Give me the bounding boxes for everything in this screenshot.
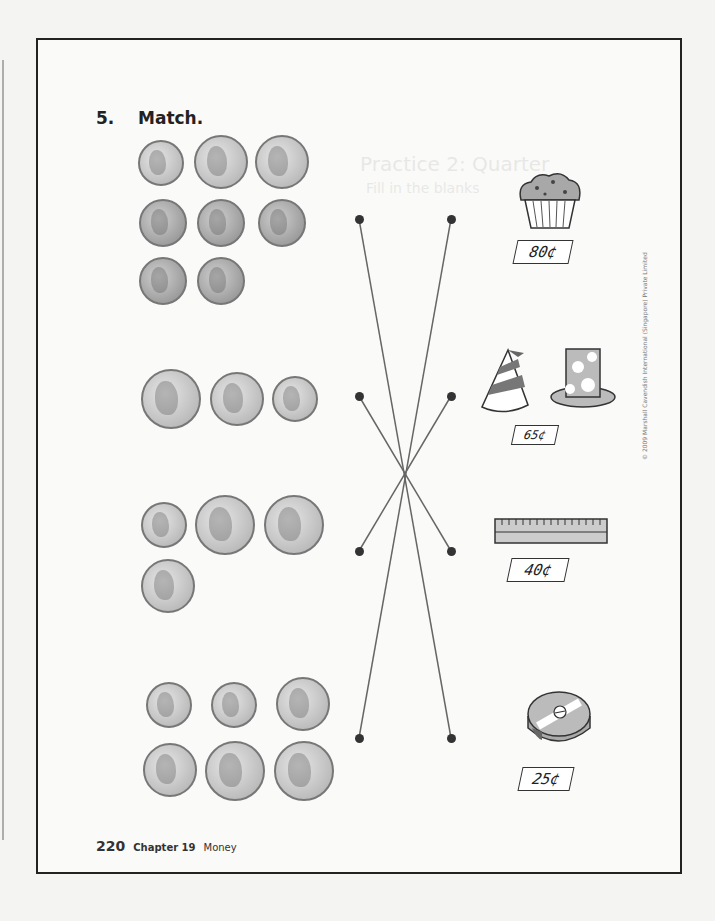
copyright-notice: © 2009 Marshall Cavendish International …	[641, 252, 648, 460]
ruler-icon	[494, 518, 609, 546]
muffin-icon	[515, 170, 585, 235]
chapter-topic: Money	[204, 842, 237, 853]
left-match-dot[interactable]	[355, 734, 364, 743]
page-number: 220	[96, 838, 125, 854]
price-tag-party-hats: 65¢	[511, 425, 559, 445]
chapter-label: Chapter 19	[133, 842, 195, 853]
left-match-dot[interactable]	[355, 215, 364, 224]
pencil-sharpener-icon	[526, 688, 592, 748]
right-match-dot[interactable]	[447, 734, 456, 743]
left-match-dot[interactable]	[355, 392, 364, 401]
matching-lines	[0, 0, 715, 921]
right-match-dot[interactable]	[447, 215, 456, 224]
price-tag-muffin: 80¢	[512, 240, 573, 264]
right-match-dot[interactable]	[447, 392, 456, 401]
right-match-dot[interactable]	[447, 547, 456, 556]
price-tag-sharpener: 25¢	[517, 767, 574, 791]
party-hats-icon	[478, 345, 623, 417]
page-footer: 220Chapter 19Money	[96, 838, 237, 854]
left-match-dot[interactable]	[355, 547, 364, 556]
price-tag-ruler: 40¢	[506, 558, 569, 582]
